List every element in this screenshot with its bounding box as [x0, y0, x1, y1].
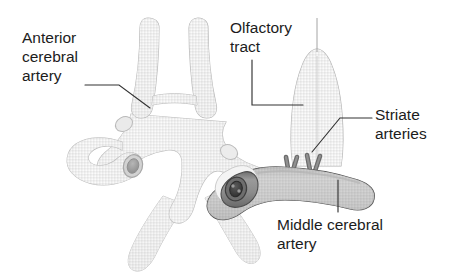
label-anterior-cerebral-artery: Anterior cerebral artery	[22, 28, 78, 85]
olfactory-tract	[291, 18, 343, 166]
anterior-communicating-artery	[152, 94, 197, 105]
anterior-cerebral-arteries	[131, 18, 216, 118]
label-striate-arteries: Striate arteries	[375, 105, 427, 143]
label-middle-cerebral-artery: Middle cerebral artery	[277, 215, 383, 253]
figure-canvas: Anterior cerebral artery Olfactory tract…	[0, 0, 459, 280]
label-olfactory-tract: Olfactory tract	[230, 18, 292, 56]
internal-carotid-artery-right	[215, 142, 258, 208]
